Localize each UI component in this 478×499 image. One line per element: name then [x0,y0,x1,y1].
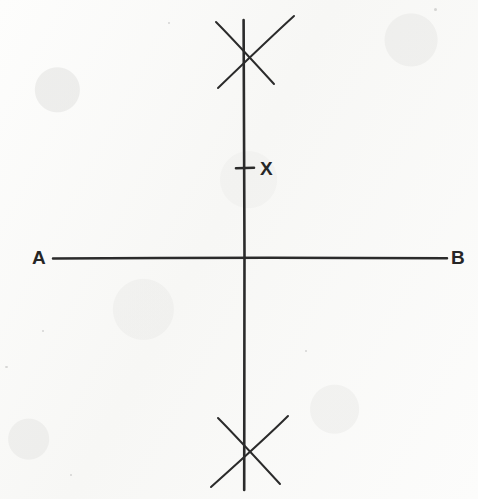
label-point-b: B [451,248,465,267]
construction-diagram-canvas: A B X [0,0,478,499]
upper-right-arc-stroke [218,16,294,88]
label-point-a: A [32,248,46,267]
perpendicular-line-stroke [244,20,245,490]
lower-left-arc-stroke [218,418,280,484]
construction-strokes [0,0,478,499]
lower-right-arc-stroke [211,416,288,487]
label-point-x: X [260,159,273,178]
line-AB-stroke [53,258,447,259]
